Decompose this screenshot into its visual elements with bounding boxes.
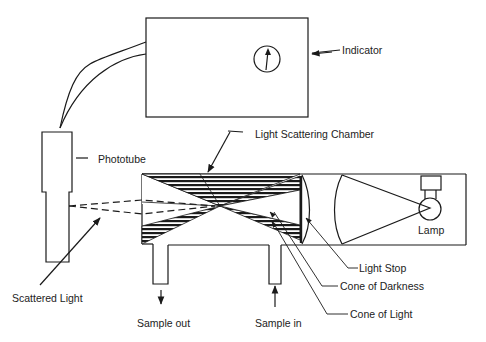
scattered-light-label: Scattered Light	[12, 292, 83, 304]
signal-cable	[60, 42, 146, 128]
phototube-body	[42, 132, 72, 262]
sample-out-label: Sample out	[137, 317, 190, 329]
lens-front	[302, 175, 310, 244]
lamp	[419, 176, 441, 220]
sample-in-label: Sample in	[255, 317, 302, 329]
indicator-label: Indicator	[342, 44, 382, 56]
chamber-label: Light Scattering Chamber	[255, 128, 374, 140]
cone-of-darkness-label: Cone of Darkness	[340, 280, 424, 292]
diagram-canvas: Phototube Indicator Light Scattering Cha…	[0, 0, 486, 342]
indicator-box	[146, 18, 308, 117]
phototube-label: Phototube	[98, 153, 146, 165]
lamp-beam	[342, 175, 430, 244]
light-stop-label: Light Stop	[359, 262, 406, 274]
lens-rear	[335, 175, 343, 244]
cone-of-light-label: Cone of Light	[350, 308, 412, 320]
lamp-label: Lamp	[418, 224, 444, 236]
